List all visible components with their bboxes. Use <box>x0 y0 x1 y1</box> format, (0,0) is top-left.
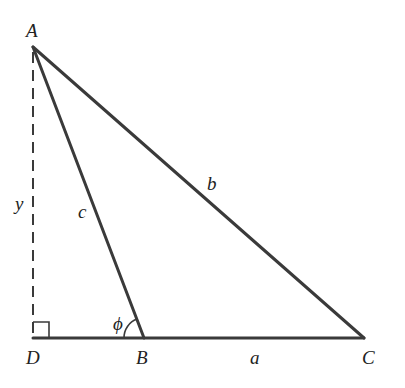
angle-phi-arc <box>124 319 137 338</box>
side-b <box>33 47 364 338</box>
side-c <box>33 47 144 338</box>
side-label-a: a <box>250 347 260 368</box>
vertex-label-c: C <box>362 347 375 368</box>
side-label-b: b <box>207 173 217 194</box>
right-angle-marker <box>33 322 49 338</box>
side-label-y: y <box>13 193 24 214</box>
side-label-c: c <box>78 201 87 222</box>
vertex-label-d: D <box>25 347 40 368</box>
angle-label-phi: ϕ <box>113 313 123 334</box>
triangle-diagram: A D B C y c b a ϕ <box>0 0 405 388</box>
vertex-label-b: B <box>136 347 148 368</box>
vertex-label-a: A <box>24 20 38 41</box>
